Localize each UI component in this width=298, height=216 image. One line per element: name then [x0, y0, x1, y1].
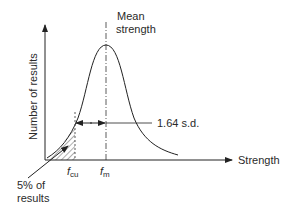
tail-label-2: results — [17, 192, 50, 204]
strength-distribution-diagram: Number of results Strength Mean strength… — [0, 0, 298, 216]
mean-strength-label-1: Mean — [117, 10, 145, 22]
mean-strength-label-2: strength — [116, 23, 156, 35]
tail-pointer-arrow — [28, 146, 68, 178]
fm-label: fm — [100, 165, 110, 179]
sd-label: 1.64 s.d. — [157, 117, 199, 129]
tail-label-1: 5% of — [17, 179, 46, 191]
x-axis-label: Strength — [238, 154, 280, 166]
y-axis-label: Number of results — [27, 53, 39, 140]
fcu-label: fcu — [67, 165, 79, 179]
